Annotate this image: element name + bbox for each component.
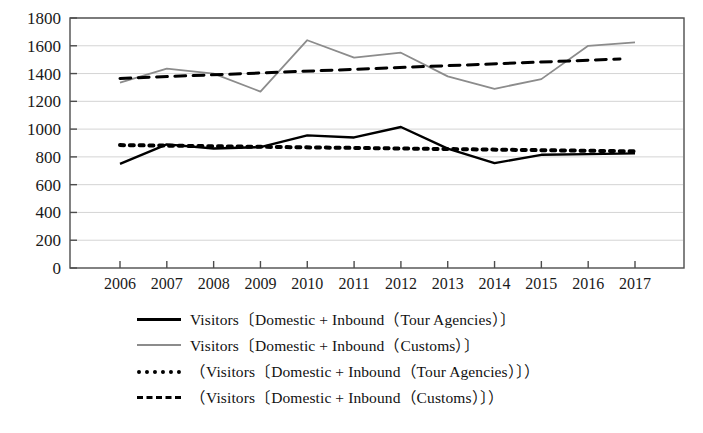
y-tick-label: 400 <box>36 203 62 222</box>
x-tick-label: 2015 <box>525 275 557 292</box>
chart-container: 020040060080010001200140016001800 200620… <box>0 0 703 433</box>
legend-label: （Visitors〔Domestic + Inbound（Customs）〕） <box>190 385 504 407</box>
y-axis-tick-labels: 020040060080010001200140016001800 <box>27 9 61 278</box>
y-tick-label: 0 <box>53 259 62 278</box>
x-tick-label: 2012 <box>385 275 417 292</box>
y-tick-label: 1600 <box>27 37 61 56</box>
y-axis-ticks <box>70 18 77 268</box>
x-tick-label: 2008 <box>198 275 230 292</box>
legend-swatch-dotted-line-icon <box>137 363 181 377</box>
y-tick-label: 200 <box>36 231 62 250</box>
legend-swatch-solid-line-icon <box>137 311 181 325</box>
legend-item-tour-agencies-trend: （Visitors〔Domestic + Inbound（Tour Agenci… <box>0 357 703 383</box>
y-tick-label: 1200 <box>27 92 61 111</box>
x-tick-label: 2017 <box>619 275 651 292</box>
x-tick-label: 2013 <box>432 275 464 292</box>
y-tick-label: 1000 <box>27 120 61 139</box>
legend-item-customs-trend: （Visitors〔Domestic + Inbound（Customs）〕） <box>0 383 703 409</box>
legend-label: （Visitors〔Domestic + Inbound（Tour Agenci… <box>190 359 540 381</box>
x-tick-label: 2011 <box>338 275 369 292</box>
series-line <box>120 40 635 91</box>
x-axis-ticks <box>120 261 635 268</box>
x-tick-label: 2007 <box>151 275 183 292</box>
y-tick-label: 600 <box>36 176 62 195</box>
y-tick-label: 1800 <box>27 9 61 28</box>
x-axis-tick-labels: 2006200720082009201020112012201320142015… <box>104 275 651 292</box>
chart-legend: Visitors〔Domestic + Inbound（Tour Agencie… <box>0 305 703 415</box>
x-tick-label: 2014 <box>479 275 511 292</box>
series-lines <box>120 40 635 164</box>
y-tick-label: 1400 <box>27 65 61 84</box>
x-tick-label: 2009 <box>244 275 276 292</box>
legend-label: Visitors〔Domestic + Inbound（Tour Agencie… <box>190 307 516 329</box>
legend-swatch-dashed-line-icon <box>137 389 181 403</box>
legend-item-customs: Visitors〔Domestic + Inbound（Customs）〕 <box>0 331 703 357</box>
y-tick-label: 800 <box>36 148 62 167</box>
y-gridlines <box>71 18 683 240</box>
legend-swatch-gray-line-icon <box>137 337 181 351</box>
legend-item-tour-agencies: Visitors〔Domestic + Inbound（Tour Agencie… <box>0 305 703 331</box>
legend-label: Visitors〔Domestic + Inbound（Customs）〕 <box>190 333 480 355</box>
x-tick-label: 2016 <box>572 275 604 292</box>
x-tick-label: 2006 <box>104 275 136 292</box>
x-tick-label: 2010 <box>291 275 323 292</box>
